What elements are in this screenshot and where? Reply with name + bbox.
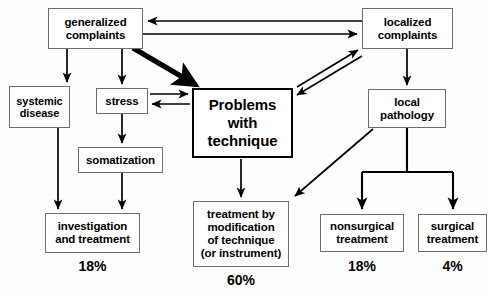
node-label-line2: with bbox=[208, 114, 278, 132]
node-label-line3: technique bbox=[208, 132, 278, 150]
node-investigation-and-treatment[interactable]: investigation and treatment bbox=[45, 213, 140, 253]
edge-localized-to-problems bbox=[297, 56, 362, 95]
percentage-surgical: 4% bbox=[418, 258, 487, 274]
percentage-investigation: 18% bbox=[45, 258, 140, 274]
node-problems-with-technique[interactable]: Problems with technique bbox=[192, 88, 293, 158]
node-label-line2: treatment bbox=[427, 233, 479, 246]
node-treatment-by-modification[interactable]: treatment by modification of technique (… bbox=[193, 201, 289, 267]
node-label-line1: somatization bbox=[86, 154, 155, 167]
edge-problems-to-localized bbox=[297, 50, 358, 87]
node-label-line1: treatment by bbox=[201, 208, 281, 221]
node-label-line1: Problems bbox=[208, 96, 278, 114]
node-label-line1: systemic bbox=[16, 95, 62, 107]
node-label-line4: (or instrument) bbox=[201, 247, 281, 260]
node-label-line2: pathology bbox=[380, 109, 434, 122]
node-label-line1: localized bbox=[378, 16, 438, 29]
node-stress[interactable]: stress bbox=[96, 88, 148, 114]
edge-generalized-to-problems-thick bbox=[133, 48, 196, 85]
node-label-line2: disease bbox=[16, 107, 62, 119]
node-label-line2: complaints bbox=[64, 29, 126, 42]
node-localized-complaints[interactable]: localized complaints bbox=[362, 8, 453, 49]
percentage-treatment-modification: 60% bbox=[193, 272, 289, 288]
node-label-line3: of technique bbox=[201, 234, 281, 247]
node-label-line1: local bbox=[380, 96, 434, 109]
node-label-line2: modification bbox=[201, 221, 281, 234]
node-label-line1: nonsurgical bbox=[330, 220, 394, 233]
node-label-line2: treatment bbox=[330, 233, 394, 246]
node-label-line1: stress bbox=[105, 95, 138, 108]
node-label-line1: surgical bbox=[427, 220, 479, 233]
node-local-pathology[interactable]: local pathology bbox=[368, 89, 446, 128]
node-somatization[interactable]: somatization bbox=[78, 147, 163, 173]
node-label-line1: investigation bbox=[55, 220, 130, 233]
percentage-nonsurgical: 18% bbox=[320, 258, 404, 274]
node-nonsurgical-treatment[interactable]: nonsurgical treatment bbox=[320, 214, 404, 252]
node-label-line2: and treatment bbox=[55, 233, 130, 246]
edge-local-pathology-to-treatment bbox=[295, 129, 373, 196]
node-label-line1: generalized bbox=[64, 16, 126, 29]
node-label-line2: complaints bbox=[378, 29, 438, 42]
node-surgical-treatment[interactable]: surgical treatment bbox=[418, 214, 487, 252]
flowchart-diagram: generalized complaints localized complai… bbox=[0, 0, 489, 295]
node-generalized-complaints[interactable]: generalized complaints bbox=[48, 8, 143, 49]
node-systemic-disease[interactable]: systemic disease bbox=[9, 86, 70, 128]
